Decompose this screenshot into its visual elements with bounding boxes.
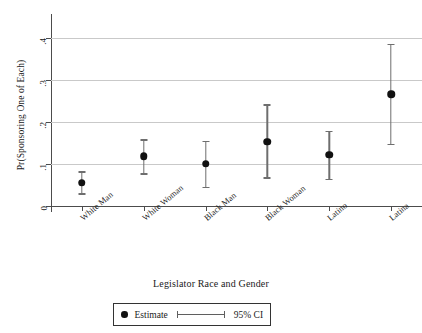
gridline — [51, 122, 422, 123]
x-tick-label-latino: Latino — [325, 200, 349, 222]
chart-figure: Pr(Sponsoring One of Each) 0.1.2.3.4 Whi… — [0, 0, 422, 333]
x-axis-line — [51, 206, 422, 207]
gridline — [51, 80, 422, 81]
error-bar-cap — [326, 131, 333, 132]
x-tick-label-white-woman: White Woman — [140, 182, 185, 222]
y-axis-line — [51, 14, 52, 212]
error-bar-cap — [78, 171, 85, 172]
error-bar-cap — [264, 104, 271, 105]
data-point — [326, 151, 334, 159]
error-bar-cap — [388, 144, 395, 145]
chart-legend: Estimate 95% CI — [113, 303, 271, 326]
error-bar-cap — [140, 139, 147, 140]
y-tick-label: .3 — [38, 80, 48, 87]
x-axis-title: Legislator Race and Gender — [0, 278, 422, 289]
error-bar-cap — [202, 187, 209, 188]
error-bar-cap — [264, 177, 271, 178]
gridline — [51, 164, 422, 165]
x-tick-label-latina: Latina — [387, 200, 411, 222]
plot-area: 0.1.2.3.4 White ManWhite WomanBlack ManB… — [51, 25, 422, 206]
x-tick-label-black-woman: Black Woman — [263, 183, 307, 223]
y-axis-title: Pr(Sponsoring One of Each) — [16, 20, 26, 210]
y-tick-label: .1 — [38, 164, 48, 171]
legend-estimate-dot-icon — [121, 311, 128, 318]
error-bar-cap — [326, 179, 333, 180]
y-tick-label: 0 — [38, 206, 48, 211]
gridline — [51, 38, 422, 39]
data-point — [387, 91, 395, 99]
data-point — [202, 160, 210, 168]
y-tick-label: .4 — [38, 38, 48, 45]
data-point — [78, 179, 86, 187]
legend-item-ci: 95% CI — [234, 310, 263, 320]
y-tick-label: .2 — [38, 122, 48, 129]
data-point — [140, 153, 148, 161]
data-point — [264, 138, 272, 146]
error-bar-cap — [78, 193, 85, 194]
legend-item-estimate: Estimate — [135, 310, 168, 320]
legend-errorbar-icon — [177, 310, 225, 319]
error-bar-cap — [388, 44, 395, 45]
error-bar-cap — [202, 141, 209, 142]
error-bar-cap — [140, 173, 147, 174]
